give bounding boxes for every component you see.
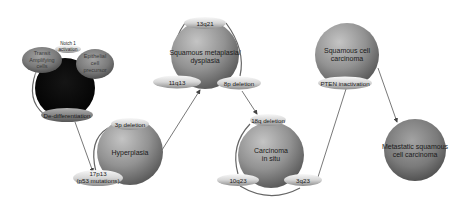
notch1-label-2: activation (58, 47, 78, 52)
scc-label-2: carcinoma (331, 55, 363, 62)
8p-deletion-label: 8p deletion (224, 80, 255, 87)
18q-deletion-label: 18q deletion (251, 117, 285, 124)
epithelial-label-1: Epithelial (84, 53, 106, 59)
arrow-stem-to-hyperplasia (75, 122, 93, 172)
cis-label-2: in situ (262, 155, 280, 162)
transit-label-2: Amplifying (29, 57, 54, 63)
stage-carcinoma-in-situ: Carcinoma in situ 18q deletion 10q23 3q2… (217, 114, 322, 188)
3q23-label: 3q23 (296, 177, 310, 184)
17p13-label: 17p13 (89, 170, 107, 177)
metastatic-sphere (384, 119, 446, 181)
arrow-dysplasia-to-cis (242, 91, 257, 114)
transit-label-1: Transit (34, 50, 51, 56)
dysplasia-label-1: Squamous metaplasia/ (169, 49, 240, 57)
stage-hyperplasia: Hyperplasia 3p deletion 17p13 (p53 mutat… (73, 118, 163, 186)
scc-label-1: Squamous cell (324, 47, 370, 55)
carcinogenesis-progression-diagram: Notch 1 activation Transit Amplifying ce… (0, 0, 466, 207)
pten-inactivation-label: PTEN inactivation (320, 80, 370, 87)
3p-deletion-label: 3p deletion (115, 121, 146, 128)
stage-dysplasia: Squamous metaplasia/ dysplasia 13q21 11q… (153, 17, 261, 90)
10q23-label: 10q23 (229, 177, 247, 184)
arrow-hyperplasia-to-dysplasia (162, 90, 200, 150)
stage-squamous-cell-carcinoma: Squamous cell carcinoma PTEN inactivatio… (315, 23, 379, 90)
stage-metastatic: Metastatic squamous cell carcinoma (382, 119, 449, 181)
arrow-cis-to-scc (318, 89, 346, 177)
p53-mutations-label: (p53 mutations) (77, 177, 120, 184)
arrow-scc-to-metastatic (378, 68, 397, 122)
metastatic-label-1: Metastatic squamous (382, 143, 449, 151)
hyperplasia-label: Hyperplasia (112, 149, 149, 157)
notch1-label: Notch 1 (60, 41, 76, 46)
cis-label-1: Carcinoma (254, 147, 288, 154)
epithelial-label-2: cell (91, 60, 99, 66)
stage-stem-cell: Notch 1 activation Transit Amplifying ce… (22, 41, 114, 122)
dediff-label: De-differentiation (43, 112, 91, 119)
dysplasia-label-2: dysplasia (190, 57, 219, 65)
metastatic-label-2: cell carcinoma (393, 151, 438, 158)
13q21-label: 13q21 (196, 20, 214, 27)
epithelial-label-3: precursor (83, 67, 106, 73)
transit-label-3: cells (36, 63, 47, 69)
11q13-label: 11q13 (169, 79, 186, 86)
